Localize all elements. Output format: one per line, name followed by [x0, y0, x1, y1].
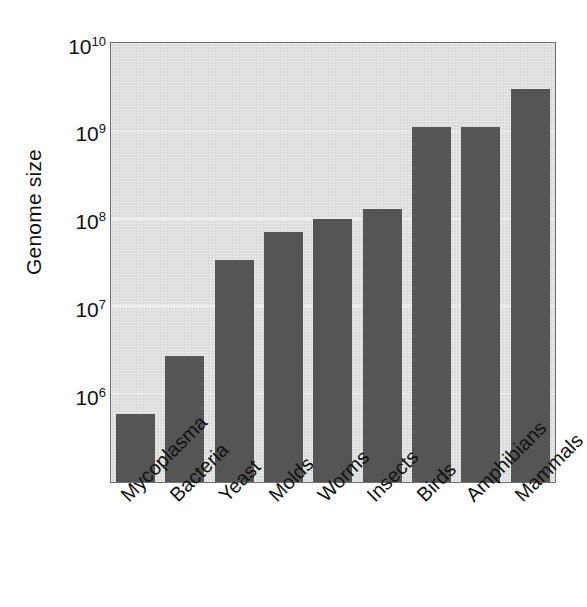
y-tick-mantissa: 10 — [68, 35, 91, 58]
y-tick-mantissa: 10 — [75, 298, 98, 321]
bar-series — [111, 43, 555, 482]
bar-birds[interactable] — [412, 127, 451, 482]
plot-area — [110, 42, 556, 483]
y-tick-label-1e8: 108 — [36, 211, 106, 232]
y-tick-exponent: 7 — [99, 297, 106, 312]
y-tick-mantissa: 10 — [75, 210, 98, 233]
y-tick-mantissa: 10 — [75, 386, 98, 409]
y-tick-mantissa: 10 — [75, 122, 98, 145]
y-tick-exponent: 8 — [99, 209, 106, 224]
bar-insects[interactable] — [363, 209, 402, 482]
y-axis-tick-labels: 1010 109 108 107 106 — [28, 0, 106, 607]
y-tick-label-1e10: 1010 — [36, 36, 106, 57]
y-tick-exponent: 9 — [99, 121, 106, 136]
y-tick-exponent: 10 — [92, 34, 106, 49]
bar-amphibians[interactable] — [461, 127, 500, 482]
bar-worms[interactable] — [313, 219, 352, 482]
y-tick-exponent: 6 — [99, 385, 106, 400]
y-tick-label-1e7: 107 — [36, 299, 106, 320]
bar-molds[interactable] — [264, 232, 303, 482]
y-tick-label-1e6: 106 — [36, 387, 106, 408]
y-tick-label-1e9: 109 — [36, 123, 106, 144]
